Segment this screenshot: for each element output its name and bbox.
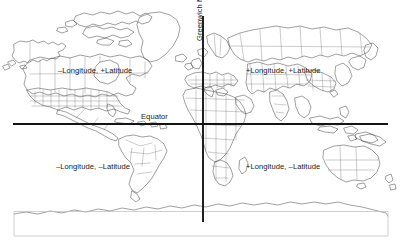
coastlines-layer — [3, 11, 396, 216]
quadrant-label-southwest: –Longitude, –Latitude — [56, 163, 130, 171]
antarctica-bounding-box — [14, 212, 388, 237]
quadrant-label-northeast: +Longitude, +Latitude — [246, 67, 321, 75]
country-borders-layer — [30, 27, 378, 182]
world-map-figure: –Longitude, +Latitude +Longitude, +Latit… — [0, 0, 400, 249]
greenwich-meridian-label: Greenwich Meridian — [196, 0, 204, 41]
quadrant-label-northwest: –Longitude, +Latitude — [58, 67, 132, 75]
equator-label: Equator — [141, 113, 168, 121]
quadrant-label-southeast: +Longitude, –Latitude — [246, 163, 320, 171]
